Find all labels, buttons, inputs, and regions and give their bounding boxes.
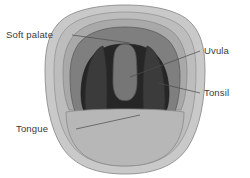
region-uvula: [113, 44, 137, 101]
label-uvula: Uvula: [204, 45, 230, 56]
label-tongue: Tongue: [16, 123, 48, 134]
oral-cavity-diagram: Soft palate Uvula Tonsil Tongue: [0, 0, 250, 178]
label-tonsil: Tonsil: [204, 87, 229, 98]
diagram-canvas: Soft palate Uvula Tonsil Tongue: [0, 0, 250, 178]
label-soft-palate: Soft palate: [6, 29, 53, 40]
